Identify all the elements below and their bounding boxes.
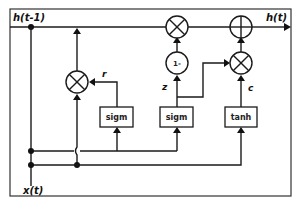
diagram-frame (10, 9, 291, 196)
arrow-z (173, 75, 181, 81)
arrow-r (89, 78, 95, 86)
mult-reset-node (66, 71, 88, 93)
mult-candidate-node (230, 52, 252, 74)
label-r: r (102, 69, 107, 79)
r-line (95, 82, 117, 107)
label-x-input: x(t) (22, 185, 43, 196)
svg-text:1-: 1- (173, 60, 181, 68)
arrow-c (237, 75, 245, 81)
arrow-tanh-in (237, 127, 245, 133)
arrow-z-branch (224, 59, 230, 67)
mult-top-node (166, 16, 188, 38)
sigm-reset-box: sigm (100, 107, 133, 127)
tanh-box: tanh (225, 107, 257, 127)
label-z: z (161, 82, 168, 92)
gru-diagram: r sigm sigm tanh z 1- (0, 0, 297, 208)
arrow-sigm-reset-in (113, 127, 121, 133)
arrow-reset-up (73, 28, 81, 34)
svg-text:sigm: sigm (166, 113, 188, 122)
svg-text:tanh: tanh (231, 113, 252, 122)
label-h-prev: h(t-1) (13, 12, 45, 23)
label-c: c (248, 83, 254, 93)
junction-dot-upper (28, 148, 34, 154)
add-output-node (230, 16, 252, 38)
reset-input-line (76, 100, 78, 165)
bus-lower (31, 133, 241, 165)
junction-dot-lower (28, 162, 34, 168)
one-minus-node: 1- (166, 52, 188, 74)
arrow-reset-in (73, 94, 81, 100)
label-h-out: h(t) (266, 12, 287, 23)
sigm-update-box: sigm (160, 107, 193, 127)
svg-text:sigm: sigm (106, 113, 128, 122)
arrow-sigm-update-in (173, 127, 181, 133)
arrow-output (284, 23, 291, 31)
